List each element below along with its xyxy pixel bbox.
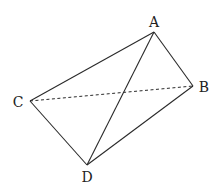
edge-ac bbox=[30, 32, 154, 101]
tetrahedron-diagram: A B C D bbox=[0, 0, 219, 195]
edges bbox=[30, 32, 193, 165]
edge-cb bbox=[30, 86, 193, 101]
vertex-label-c: C bbox=[13, 94, 24, 110]
edge-ab bbox=[154, 32, 193, 86]
vertex-label-b: B bbox=[199, 79, 209, 95]
edge-ad bbox=[87, 32, 154, 165]
vertex-label-d: D bbox=[81, 169, 92, 185]
edge-db bbox=[87, 86, 193, 165]
edge-cd bbox=[30, 101, 87, 165]
vertex-label-a: A bbox=[148, 14, 160, 30]
